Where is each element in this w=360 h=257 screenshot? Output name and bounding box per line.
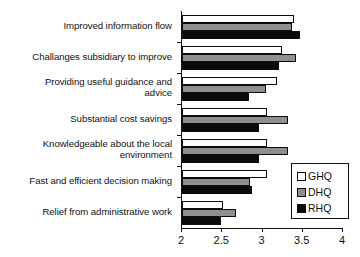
- bar-ghq: [182, 46, 282, 54]
- x-axis-tick: [302, 228, 303, 232]
- bar-rhq: [182, 186, 252, 194]
- x-axis-tick-label: 4: [327, 234, 357, 246]
- bar-rhq: [182, 217, 221, 225]
- chart-legend: GHQDHQRHQ: [291, 163, 349, 219]
- bar-ghq: [182, 139, 267, 147]
- bar-ghq: [182, 15, 294, 23]
- gray-square-swatch: [297, 188, 306, 197]
- y-axis-tick: [177, 166, 181, 167]
- bar-rhq: [182, 93, 249, 101]
- grouped-bar-chart: Improved information flowChallanges subs…: [0, 0, 360, 257]
- legend-label: GHQ: [308, 171, 332, 182]
- category-label: Relief from administrative work: [0, 206, 172, 217]
- bar-ghq: [182, 77, 277, 85]
- white-square-swatch: [297, 172, 306, 181]
- x-axis-tick-label: 3.5: [287, 234, 317, 246]
- x-axis-tick-label: 2: [166, 234, 196, 246]
- legend-label: RHQ: [308, 203, 331, 214]
- bar-dhq: [182, 23, 292, 31]
- legend-label: DHQ: [308, 187, 331, 198]
- bar-dhq: [182, 147, 288, 155]
- bar-dhq: [182, 178, 250, 186]
- bar-dhq: [182, 209, 236, 217]
- bar-dhq: [182, 54, 296, 62]
- bar-ghq: [182, 108, 267, 116]
- category-label: Providing useful guidance and advice: [0, 76, 172, 99]
- bar-dhq: [182, 85, 266, 93]
- bar-rhq: [182, 155, 259, 163]
- x-axis-tick: [342, 228, 343, 232]
- x-axis-tick: [181, 228, 182, 232]
- y-axis-tick: [177, 135, 181, 136]
- legend-item-rhq[interactable]: RHQ: [297, 200, 348, 216]
- category-label: Knowledgeable about the local environmen…: [0, 138, 172, 161]
- category-label: Challanges subsidiary to improve: [0, 51, 172, 62]
- category-label: Improved information flow: [0, 20, 172, 31]
- bar-rhq: [182, 62, 279, 70]
- bar-ghq: [182, 201, 223, 209]
- bar-rhq: [182, 31, 300, 39]
- category-label: Fast and efficient decision making: [0, 175, 172, 186]
- bar-ghq: [182, 170, 267, 178]
- bar-rhq: [182, 124, 259, 132]
- y-axis-tick: [177, 104, 181, 105]
- y-axis-tick: [177, 73, 181, 74]
- x-axis-tick-label: 3: [247, 234, 277, 246]
- category-label: Substantial cost savings: [0, 113, 172, 124]
- bar-dhq: [182, 116, 288, 124]
- x-axis-tick: [221, 228, 222, 232]
- category-label-column: Improved information flowChallanges subs…: [0, 0, 176, 228]
- legend-item-ghq[interactable]: GHQ: [297, 168, 348, 184]
- y-axis-tick: [177, 42, 181, 43]
- black-square-swatch: [297, 204, 306, 213]
- x-axis-tick-label: 2.5: [206, 234, 236, 246]
- y-axis-tick: [177, 197, 181, 198]
- legend-item-dhq[interactable]: DHQ: [297, 184, 348, 200]
- x-axis-tick: [262, 228, 263, 232]
